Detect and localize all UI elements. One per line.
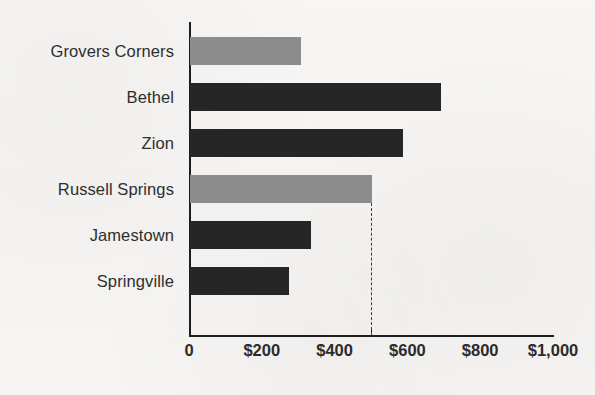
bar-jamestown xyxy=(190,221,311,249)
x-tick-label-1000: $1,000 xyxy=(528,342,578,359)
bar-grovers-corners xyxy=(190,37,301,65)
category-axis-labels: Grovers Corners Bethel Zion Russell Spri… xyxy=(0,0,182,395)
x-tick-label-600: $600 xyxy=(389,342,426,359)
x-tick-label-800: $800 xyxy=(462,342,499,359)
category-label-1: Bethel xyxy=(127,89,174,106)
category-label-3: Russell Springs xyxy=(58,181,174,198)
bar-zion xyxy=(190,129,403,157)
plot-area xyxy=(189,22,555,338)
x-tick-label-400: $400 xyxy=(316,342,353,359)
x-tick-label-200: $200 xyxy=(243,342,280,359)
bar-bethel xyxy=(190,83,441,111)
bar-chart: Grovers Corners Bethel Zion Russell Spri… xyxy=(0,0,595,395)
category-label-5: Springville xyxy=(97,273,174,290)
bar-springville xyxy=(190,267,289,295)
reference-line-dashed xyxy=(371,203,372,335)
bar-russell-springs xyxy=(190,175,372,203)
category-label-2: Zion xyxy=(142,135,175,152)
category-label-4: Jamestown xyxy=(90,227,174,244)
category-label-0: Grovers Corners xyxy=(51,43,174,60)
x-tick-label-0: 0 xyxy=(184,342,193,359)
x-axis-tick-labels: 0 $200 $400 $600 $800 $1,000 xyxy=(0,342,595,372)
